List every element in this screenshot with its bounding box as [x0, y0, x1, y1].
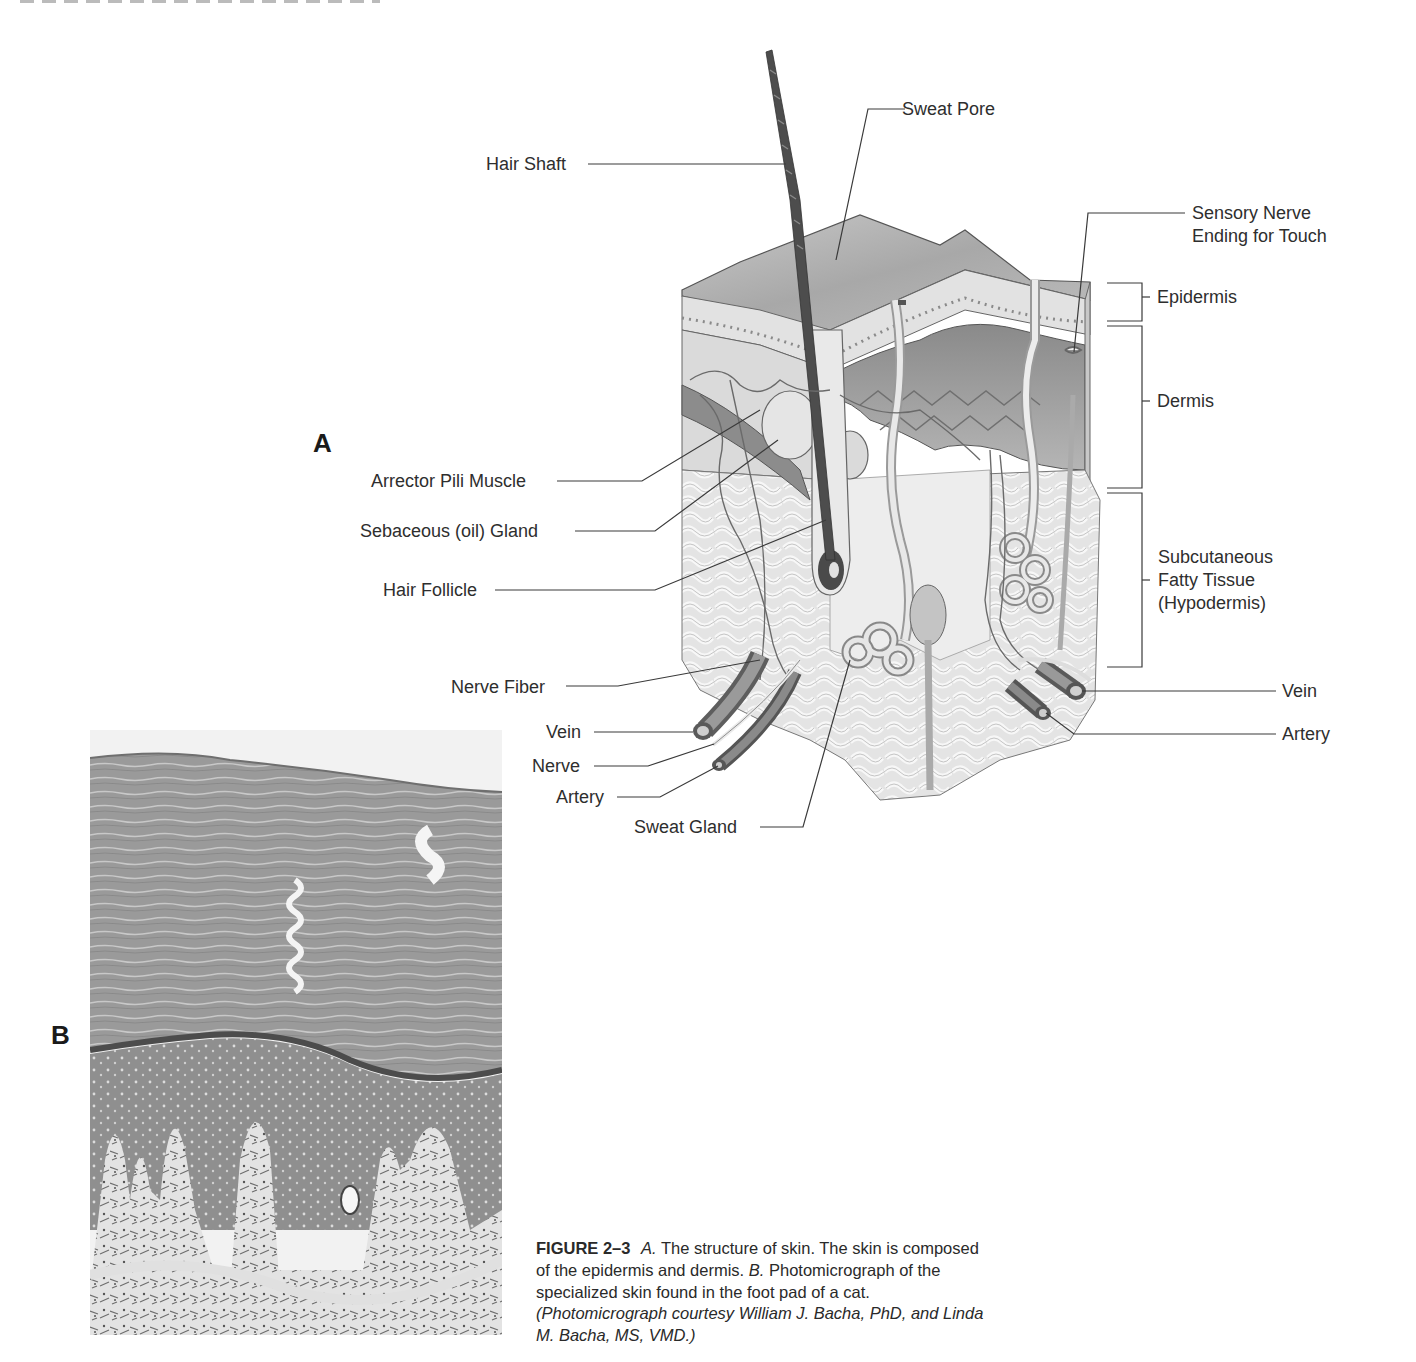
label-sensory-nerve-line1: Sensory Nerve — [1192, 203, 1311, 224]
label-subcutaneous-line3: (Hypodermis) — [1158, 593, 1266, 614]
figure-number: FIGURE 2–3 — [536, 1239, 630, 1257]
label-vein-left: Vein — [546, 722, 581, 743]
caption-credit: (Photomicrograph courtesy William J. Bac… — [536, 1304, 983, 1344]
label-vein-right: Vein — [1282, 681, 1317, 702]
caption-part-a-label: A. — [641, 1239, 657, 1257]
label-nerve: Nerve — [532, 756, 580, 777]
label-arrector-pili-muscle: Arrector Pili Muscle — [371, 471, 526, 492]
photomicrograph-cat-footpad — [90, 730, 502, 1335]
label-sebaceous-gland: Sebaceous (oil) Gland — [360, 521, 538, 542]
label-subcutaneous-line2: Fatty Tissue — [1158, 570, 1255, 591]
skin-block — [682, 50, 1100, 800]
panel-label-b: B — [51, 1020, 70, 1051]
label-hair-shaft: Hair Shaft — [486, 154, 566, 175]
label-artery-left: Artery — [556, 787, 604, 808]
figure-caption: FIGURE 2–3 A. The structure of skin. The… — [536, 1238, 996, 1347]
label-artery-right: Artery — [1282, 724, 1330, 745]
caption-part-b-label: B. — [749, 1261, 765, 1279]
label-sweat-pore: Sweat Pore — [902, 99, 995, 120]
label-sweat-gland: Sweat Gland — [634, 817, 737, 838]
label-dermis: Dermis — [1157, 391, 1214, 412]
label-hair-follicle: Hair Follicle — [383, 580, 477, 601]
label-subcutaneous-line1: Subcutaneous — [1158, 547, 1273, 568]
histology-image — [90, 730, 502, 1335]
label-epidermis: Epidermis — [1157, 287, 1237, 308]
label-nerve-fiber: Nerve Fiber — [451, 677, 545, 698]
label-sensory-nerve-line2: Ending for Touch — [1192, 226, 1327, 247]
